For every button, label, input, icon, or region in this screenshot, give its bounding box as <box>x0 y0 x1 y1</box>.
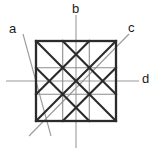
axis-lines <box>6 15 139 148</box>
geometry-diagram <box>0 0 162 152</box>
diagonal-r3c1-slash <box>36 94 63 121</box>
axis-label-d: d <box>142 72 149 85</box>
cell-diagonals <box>36 41 116 121</box>
axis-label-b: b <box>72 2 79 15</box>
axis-label-a: a <box>9 22 16 35</box>
diagonal-r3c3-backslash <box>89 94 116 121</box>
diagonal-r1c3-slash <box>89 41 116 68</box>
figure-canvas: a b c d <box>0 0 162 152</box>
axis-label-c: c <box>128 21 135 34</box>
diagonal-r1c1-backslash <box>36 41 63 68</box>
